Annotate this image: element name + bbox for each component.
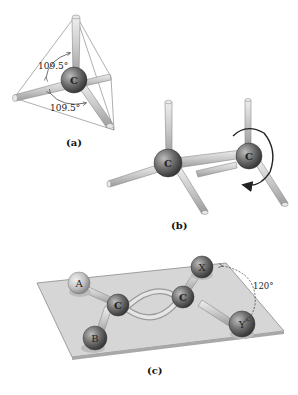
carbon-atom-label: C: [70, 75, 78, 86]
carbon-atom-right-label: C: [245, 151, 253, 162]
carbon-atom-left-label: C: [114, 300, 122, 311]
atom-a-label: A: [74, 278, 83, 289]
atom-b-label: B: [91, 333, 98, 344]
carbon-atom-left-label: C: [164, 158, 172, 169]
panel-a-tetrahedral-carbon: C 109.5° 109.5° (a): [13, 15, 115, 148]
angle-label-bottom: 109.5°: [50, 103, 80, 113]
angle-label-top: 109.5°: [38, 61, 68, 71]
atom-y-label: Y: [238, 319, 246, 330]
panel-a-label: (a): [66, 137, 82, 148]
carbon-atom-right-label: C: [179, 292, 187, 303]
panel-b-label: (b): [171, 220, 187, 231]
molecular-geometry-diagram: C 109.5° 109.5° (a) C: [0, 0, 298, 395]
panel-c-double-bond-planar: A B C C X Y 120° (c): [37, 256, 284, 376]
atom-x-label: X: [198, 262, 206, 273]
angle-label-120: 120°: [253, 281, 273, 291]
panel-c-label: (c): [147, 365, 163, 376]
panel-b-single-bond-rotation: C C (b): [107, 98, 288, 231]
